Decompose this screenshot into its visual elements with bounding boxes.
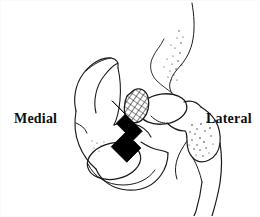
ilium-outer-contour [75,58,119,111]
iliac-wing-lateral-border [151,39,172,93]
ischial-tuberosity-curve [88,164,155,185]
pubic-notch [76,123,87,133]
acetabular-inferior-lip [141,142,168,153]
anatomical-figure: Medial Lateral [0,0,260,217]
femur-shaft-medial-border [193,182,202,217]
label-lateral: Lateral [206,111,252,127]
pelvis-medial-border [75,111,96,169]
femoral-neck-inferior [167,123,185,131]
femur-shaft-superior-outline [171,3,194,80]
label-medial: Medial [14,111,57,127]
ilium-inner-contour [95,63,118,113]
stipple-acetabular-roof [164,30,184,80]
hip-joint-illustration [1,1,260,217]
lesser-trochanter [176,141,188,179]
ilium-anterior-column [114,68,120,125]
